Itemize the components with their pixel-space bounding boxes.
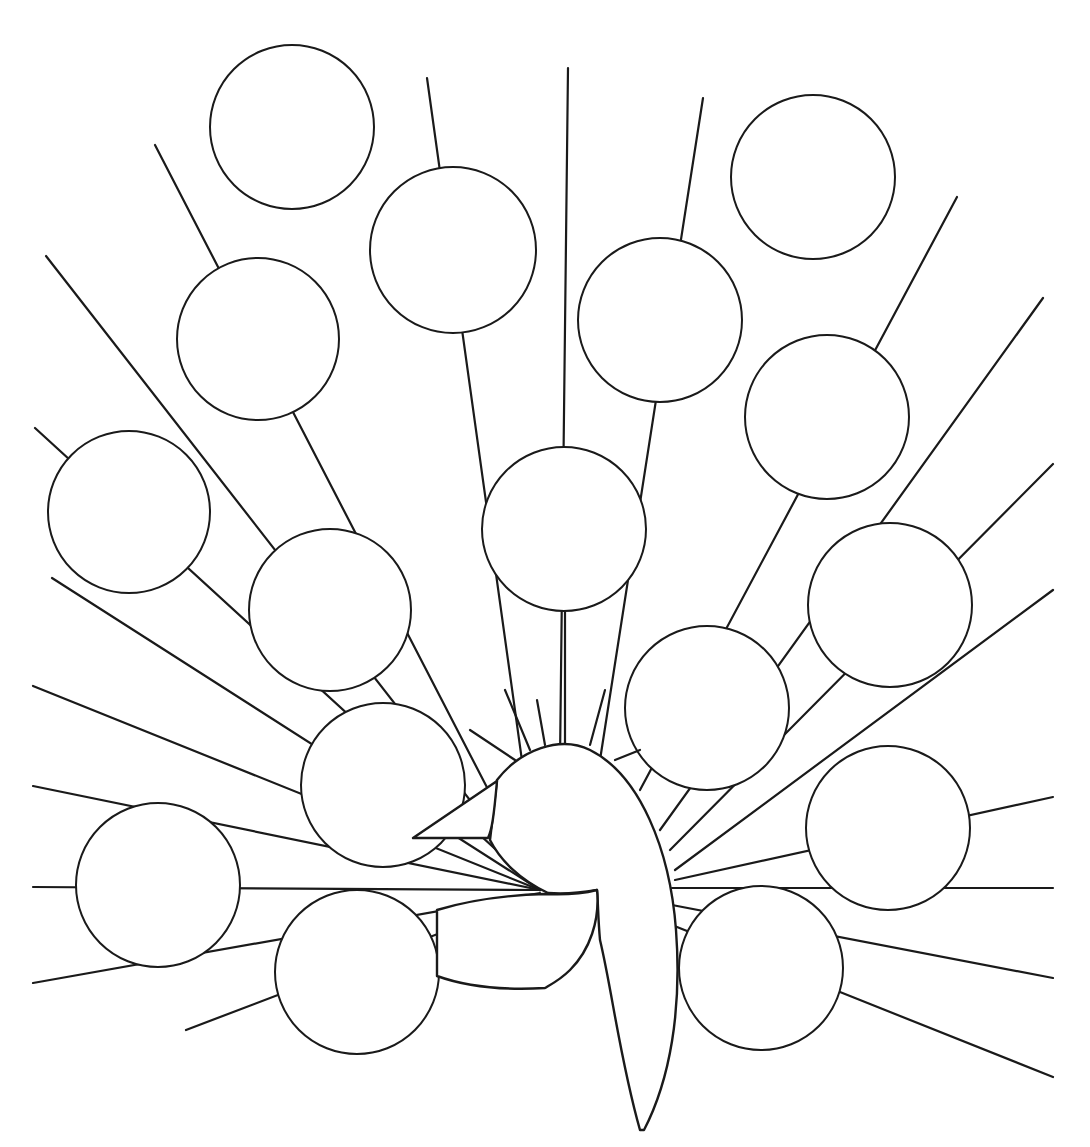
inner-shafts (470, 612, 640, 760)
feather-eye-icon (275, 890, 439, 1054)
feather-eye-icon (745, 335, 909, 499)
peacock-illustration (0, 0, 1090, 1147)
feather-eye-icon (249, 529, 411, 691)
feather-eye-icon (370, 167, 536, 333)
feather-eye-icon (301, 703, 465, 867)
feather-eye-icon (808, 523, 972, 687)
peacock-wing-icon (437, 890, 598, 989)
feather-eye-icon (48, 431, 210, 593)
feather-eye-icon (578, 238, 742, 402)
feather-eye-icon (482, 447, 646, 611)
feather-eye-icon (177, 258, 339, 420)
feather-eye-icon (806, 746, 970, 910)
feather-eye-icon (76, 803, 240, 967)
feather-eye-icon (210, 45, 374, 209)
feather-eye-icon (625, 626, 789, 790)
feather-eye-icon (731, 95, 895, 259)
feather-eye-icon (679, 886, 843, 1050)
